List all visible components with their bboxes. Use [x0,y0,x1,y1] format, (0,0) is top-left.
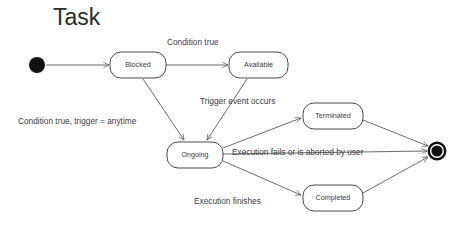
transition-available-to-ongoing [207,79,247,140]
state-node-ongoing: Ongoing [167,142,223,168]
edge-label-condition-true-trigger-anytime: Condition true, trigger = anytime [18,116,137,126]
state-label-ongoing: Ongoing [181,150,208,159]
page-title: Task [53,4,101,30]
state-node-blocked: Blocked [110,52,166,78]
state-label-blocked: Blocked [125,60,151,69]
transition-terminated-to-final [363,120,428,146]
final-state-node [429,143,445,159]
edge-label-condition-true: Condition true [167,37,219,47]
state-node-completed: Completed [303,185,363,211]
transition-completed-to-final [363,157,428,193]
state-node-terminated: Terminated [303,103,363,129]
transition-ongoing-to-completed [223,161,301,195]
final-state-fill [431,145,442,156]
transition-blocked-to-ongoing [143,79,184,140]
edge-label-execution-fails: Execution fails or is aborted by user [232,147,364,157]
state-label-available: Available [244,60,273,69]
state-label-terminated: Terminated [315,111,351,120]
state-label-completed: Completed [316,193,351,202]
initial-state-node [29,57,45,73]
edge-label-execution-finishes: Execution finishes [194,196,261,206]
state-node-available: Available [229,52,288,78]
edge-label-trigger-event-occurs: Trigger event occurs [200,96,275,106]
transition-ongoing-to-terminated [223,118,301,148]
task-state-diagram: Task Blocked Available Ongoing Terminate… [0,0,462,225]
